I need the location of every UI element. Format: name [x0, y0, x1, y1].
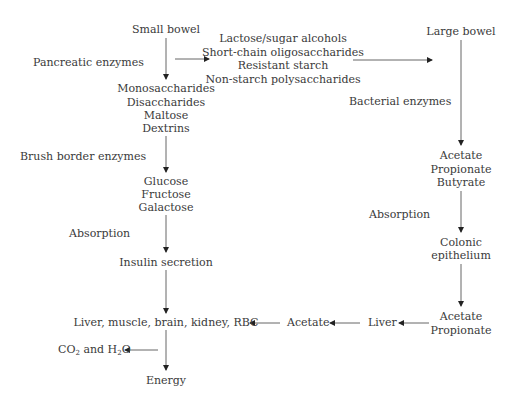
- fructose-label: Fructose: [141, 188, 190, 201]
- galactose-label: Galactose: [139, 201, 194, 214]
- monosaccharides-label: Monosaccharides: [117, 82, 215, 95]
- undigested-item: Lactose/sugar alcohols: [219, 32, 347, 45]
- undigested-item: Non-starch polysaccharides: [205, 73, 360, 86]
- acetate-label: Acetate: [440, 149, 483, 162]
- maltose-label: Maltose: [144, 109, 189, 122]
- absorption-label-right: Absorption: [369, 208, 430, 221]
- undigested-item: Short-chain oligosaccharides: [202, 46, 364, 59]
- acetate-output-label: Acetate: [287, 316, 330, 329]
- propionate-label: Propionate: [430, 163, 491, 176]
- large-bowel-label: Large bowel: [426, 25, 495, 38]
- absorption-label-left: Absorption: [69, 227, 130, 240]
- colonic-label: Colonic: [440, 236, 482, 249]
- co2-h2o-label: CO2 and H2O: [58, 343, 131, 356]
- epithelium-label: epithelium: [431, 249, 491, 262]
- small-bowel-label: Small bowel: [132, 23, 200, 36]
- energy-label: Energy: [146, 374, 186, 387]
- pancreatic-enzymes-label: Pancreatic enzymes: [33, 56, 144, 69]
- glucose-label: Glucose: [144, 175, 188, 188]
- acetate-bottom-label: Acetate: [440, 310, 483, 323]
- organs-label: Liver, muscle, brain, kidney, RBC: [74, 316, 259, 329]
- dextrins-label: Dextrins: [142, 122, 189, 135]
- insulin-secretion-label: Insulin secretion: [119, 256, 213, 269]
- brush-border-enzymes-label: Brush border enzymes: [20, 150, 146, 163]
- propionate-bottom-label: Propionate: [430, 324, 491, 337]
- butyrate-label: Butyrate: [437, 176, 486, 189]
- undigested-item: Resistant starch: [238, 59, 329, 72]
- liver-label: Liver: [368, 316, 397, 329]
- bacterial-enzymes-label: Bacterial enzymes: [349, 95, 451, 108]
- disaccharides-label: Disaccharides: [127, 96, 205, 109]
